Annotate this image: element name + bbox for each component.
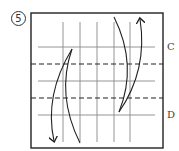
fold-diagram [0,0,179,151]
horizontal-creases [38,47,155,115]
vertical-creases [63,22,130,142]
left-fold-arrow-icon [51,49,80,143]
